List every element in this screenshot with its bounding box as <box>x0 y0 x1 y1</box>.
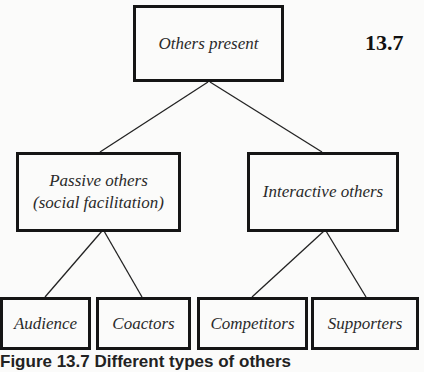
node-audience: Audience <box>0 297 91 350</box>
node-label: Passive others <box>33 170 164 192</box>
figure-caption: Figure 13.7 Different types of others <box>0 352 291 372</box>
edge-root-interactive <box>210 82 322 152</box>
edge-interactive-supporters <box>326 231 366 297</box>
node-others-present: Others present <box>133 5 284 82</box>
node-label: Coactors <box>112 314 174 334</box>
edge-passive-audience <box>45 231 102 297</box>
node-passive-others: Passive others (social facilitation) <box>16 152 181 232</box>
edge-root-passive <box>100 82 208 152</box>
edge-interactive-competitors <box>252 231 324 297</box>
node-coactors: Coactors <box>96 297 191 350</box>
edge-passive-coactors <box>104 231 142 297</box>
figure-number: 13.7 <box>365 30 404 56</box>
node-label: Competitors <box>210 314 294 334</box>
node-label: Supporters <box>328 314 403 334</box>
node-competitors: Competitors <box>197 297 308 350</box>
node-sublabel: (social facilitation) <box>33 192 164 214</box>
node-interactive-others: Interactive others <box>247 152 399 232</box>
node-label: Audience <box>14 314 77 334</box>
node-supporters: Supporters <box>311 297 419 350</box>
node-label: Interactive others <box>263 181 383 203</box>
node-label: Others present <box>159 34 259 54</box>
